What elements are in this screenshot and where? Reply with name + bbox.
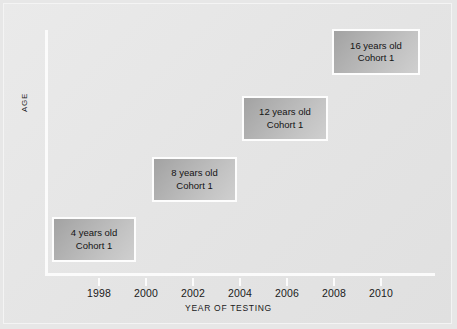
chart-page: AGE YEAR OF TESTING 1998 2000 2002 2004 …	[0, 0, 457, 329]
x-tick-mark	[98, 278, 100, 286]
cohort-box-age-label: 4 years old	[71, 227, 117, 240]
cohort-box-age-label: 12 years old	[259, 106, 311, 119]
cohort-box-age-label: 16 years old	[350, 40, 402, 53]
cohort-box-cohort-label: Cohort 1	[176, 180, 212, 193]
x-tick-label-2004: 2004	[228, 287, 252, 299]
y-axis-title: AGE	[20, 93, 29, 112]
cohort-box-age-16: 16 years old Cohort 1	[332, 29, 420, 75]
cohort-box-cohort-label: Cohort 1	[267, 119, 303, 132]
x-tick-mark	[145, 278, 147, 286]
cohort-box-age-4: 4 years old Cohort 1	[52, 217, 136, 262]
x-tick-mark	[286, 278, 288, 286]
x-axis-line	[45, 273, 435, 276]
cohort-box-cohort-label: Cohort 1	[358, 52, 394, 65]
x-tick-label-1998: 1998	[87, 287, 111, 299]
cohort-box-age-8: 8 years old Cohort 1	[152, 157, 237, 202]
cohort-box-age-12: 12 years old Cohort 1	[242, 96, 328, 141]
x-tick-label-2000: 2000	[134, 287, 158, 299]
cohort-box-cohort-label: Cohort 1	[76, 240, 112, 253]
x-tick-mark	[333, 278, 335, 286]
x-tick-label-2006: 2006	[275, 287, 299, 299]
x-tick-mark	[192, 278, 194, 286]
cohort-box-age-label: 8 years old	[171, 167, 217, 180]
x-tick-label-2010: 2010	[369, 287, 393, 299]
x-tick-mark	[239, 278, 241, 286]
x-tick-label-2002: 2002	[181, 287, 205, 299]
y-axis-line	[45, 30, 48, 276]
x-tick-label-2008: 2008	[322, 287, 346, 299]
plot-area: AGE YEAR OF TESTING 1998 2000 2002 2004 …	[0, 0, 457, 329]
x-axis-title: YEAR OF TESTING	[0, 303, 457, 313]
x-tick-mark	[380, 278, 382, 286]
